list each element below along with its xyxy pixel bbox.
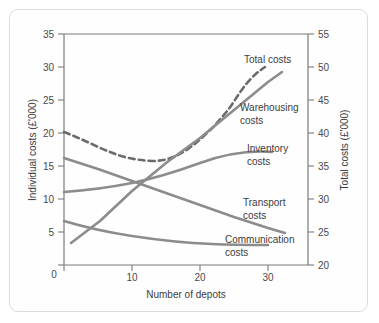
left-tick-label-20: 20: [43, 128, 55, 139]
left-tick-label-0: 0: [51, 269, 57, 280]
chart-figure: 35 30 25 20 15 10 5 0 55 50 45 40 35 30: [0, 0, 379, 323]
left-tick-label-10: 10: [43, 194, 55, 205]
left-axis-ticks: [58, 34, 64, 265]
series-label-communication-line2: costs: [225, 247, 248, 258]
series-label-total-costs: Total costs: [244, 54, 291, 65]
right-axis-tick-labels: 55 50 45 40 35 30 25 20: [318, 29, 330, 271]
x-axis-tick-labels: 10 20 30: [126, 272, 274, 283]
right-tick-label-40: 40: [318, 128, 330, 139]
right-tick-label-20: 20: [318, 260, 330, 271]
left-tick-label-35: 35: [43, 29, 55, 40]
x-axis-ticks: [64, 265, 268, 271]
left-tick-label-25: 25: [43, 95, 55, 106]
x-tick-label-30: 30: [262, 272, 274, 283]
y2-axis-title: Total costs (£'000): [339, 110, 350, 191]
series-label-transport-costs: Transport costs: [243, 197, 288, 221]
left-tick-label-5: 5: [48, 227, 54, 238]
left-axis-tick-labels: 35 30 25 20 15 10 5 0: [43, 29, 57, 280]
left-tick-label-15: 15: [43, 161, 55, 172]
right-tick-label-55: 55: [318, 29, 330, 40]
series-label-warehousing-costs: Warehousing costs: [240, 102, 301, 126]
series-label-warehousing-line2: costs: [240, 115, 263, 126]
x-axis-title: Number of depots: [146, 289, 226, 300]
left-tick-label-30: 30: [43, 62, 55, 73]
right-axis-ticks: [308, 34, 314, 265]
series-label-inventory-line2: costs: [247, 156, 270, 167]
y-axis-title: Individual costs (£'000): [27, 99, 38, 201]
series-line-total-costs: [64, 67, 265, 161]
series-label-inventory-line1: Inventory: [247, 143, 288, 154]
right-tick-label-25: 25: [318, 227, 330, 238]
cost-vs-depots-line-chart: 35 30 25 20 15 10 5 0 55 50 45 40 35 30: [0, 0, 379, 323]
series-label-transport-line2: costs: [243, 210, 266, 221]
x-tick-label-20: 20: [194, 272, 206, 283]
right-tick-label-50: 50: [318, 62, 330, 73]
series-label-communication-line1: Communication: [225, 234, 294, 245]
right-tick-label-35: 35: [318, 161, 330, 172]
series-label-transport-line1: Transport: [243, 197, 286, 208]
x-tick-label-10: 10: [126, 272, 138, 283]
right-tick-label-30: 30: [318, 194, 330, 205]
right-tick-label-45: 45: [318, 95, 330, 106]
series-label-warehousing-line1: Warehousing: [240, 102, 299, 113]
series-label-inventory-costs: Inventory costs: [247, 143, 291, 167]
